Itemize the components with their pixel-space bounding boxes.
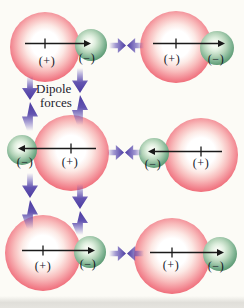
dipole-moment-arrow	[20, 37, 96, 50]
positive-charge-label: (+)	[164, 52, 180, 67]
positive-charge-label: (+)	[163, 258, 179, 273]
dipole-forces-label: Dipole forces	[36, 82, 72, 110]
negative-charge-label: (−)	[79, 51, 95, 66]
dipole-moment-arrow	[12, 142, 98, 155]
negative-charge-label: (−)	[208, 52, 224, 67]
negative-charge-label: (−)	[145, 157, 161, 172]
dipole-moment-arrow	[148, 37, 228, 50]
dipole-forces-diagram: (+) (−) (+) (−) (−) (+) (−) (+)	[0, 0, 244, 308]
positive-charge-label: (+)	[193, 156, 209, 171]
dipole-forces-label-line1: Dipole	[36, 82, 72, 96]
dipole-moment-arrow	[145, 246, 227, 259]
positive-charge-label: (+)	[35, 259, 51, 274]
negative-charge-label: (−)	[80, 257, 96, 272]
dipole-moment-arrow	[17, 244, 97, 257]
dipole-forces-label-line2: forces	[40, 96, 72, 110]
page-edge-shadow	[0, 296, 244, 308]
positive-charge-label: (+)	[62, 155, 78, 170]
negative-charge-label: (−)	[208, 259, 224, 274]
negative-charge-label: (−)	[17, 155, 33, 170]
positive-charge-label: (+)	[39, 54, 55, 69]
